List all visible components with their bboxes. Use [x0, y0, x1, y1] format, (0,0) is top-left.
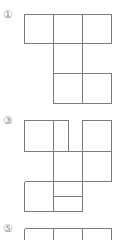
- figure-1-net: [25, 15, 112, 104]
- net-diagrams: [0, 0, 126, 240]
- figure-3-net: [25, 121, 112, 212]
- figure-5-net: [25, 229, 112, 240]
